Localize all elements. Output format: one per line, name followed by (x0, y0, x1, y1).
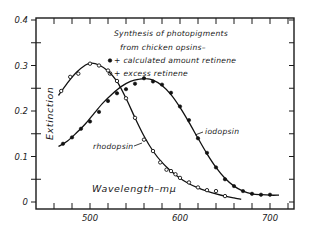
iodopsin-point (259, 193, 262, 196)
iodopsin-label: iodopsin (205, 127, 239, 136)
rhodopsin-point (223, 194, 226, 197)
series-layer (59, 62, 280, 199)
y-tick-label: 0.2 (14, 106, 28, 116)
rhodopsin-point (60, 89, 63, 92)
legend-entry-calculated: + calculated amount retinene (114, 56, 236, 65)
legend: Synthesis of photopigments from chicken … (108, 29, 236, 78)
iodopsin-point (196, 137, 199, 140)
iodopsin-point (250, 192, 253, 195)
y-tick-label: 0.3 (14, 61, 28, 71)
rhodopsin-label: rhodopsin (93, 142, 133, 151)
rhodopsin-point (165, 168, 168, 171)
rhodopsin-point (124, 97, 127, 100)
rhodopsin-point (169, 169, 172, 172)
iodopsin-point (124, 87, 127, 90)
rhodopsin-point (106, 69, 109, 72)
iodopsin-point (268, 193, 271, 196)
rhodopsin-point (159, 161, 162, 164)
rhodopsin-point (77, 72, 80, 75)
x-tick-label: 500 (82, 213, 98, 223)
iodopsin-point (178, 105, 181, 108)
iodopsin-point (70, 136, 73, 139)
iodopsin-point (115, 92, 118, 95)
legend-heading-line-2: from chicken opsins– (120, 43, 206, 52)
rhodopsin-point (69, 75, 72, 78)
iodopsin-point (205, 151, 208, 154)
rhodopsin-point (151, 149, 154, 152)
y-axis-title: Extinction (44, 87, 55, 140)
series-iodopsin (59, 77, 280, 197)
iodopsin-point (223, 178, 226, 181)
iodopsin-point (241, 189, 244, 192)
rhodopsin-point (88, 62, 91, 65)
rhodopsin-point (142, 138, 145, 141)
iodopsin-point (151, 80, 154, 83)
rhodopsin-point (174, 173, 177, 176)
spectra-chart: 500600700 00.10.20.30.4 Extinction Wavel… (0, 0, 315, 236)
iodopsin-point (169, 91, 172, 94)
rhodopsin-point (205, 188, 208, 191)
iodopsin-point (106, 99, 109, 102)
iodopsin-point (79, 127, 82, 130)
iodopsin-point (142, 77, 145, 80)
iodopsin-point (97, 110, 100, 113)
y-tick-labels: 00.10.20.30.4 (14, 15, 28, 207)
iodopsin-point (214, 166, 217, 169)
rhodopsin-point (133, 116, 136, 119)
iodopsin-point (187, 118, 190, 121)
x-tick-label: 600 (172, 213, 188, 223)
iodopsin-leader-line (195, 132, 203, 135)
rhodopsin-point (214, 189, 217, 192)
iodopsin-point (88, 120, 91, 123)
iodopsin-point (133, 82, 136, 85)
iodopsin-point (232, 184, 235, 187)
rhodopsin-leader-line (134, 143, 142, 146)
x-tick-label: 700 (262, 213, 278, 223)
y-tick-label: 0.1 (14, 152, 28, 162)
x-axis-title: Wavelength–mμ (92, 183, 176, 194)
legend-entry-excess: + excess retinene (114, 69, 188, 78)
rhodopsin-point (196, 186, 199, 189)
legend-heading-line-1: Synthesis of photopigments (114, 29, 228, 38)
legend-marker-filled (108, 59, 112, 63)
rhodopsin-point (178, 176, 181, 179)
iodopsin-point (61, 142, 64, 145)
y-tick-label: 0 (23, 197, 28, 207)
iodopsin-point (160, 83, 163, 86)
rhodopsin-point (187, 181, 190, 184)
iodopsin-curve (59, 79, 280, 196)
x-tick-labels: 500600700 (82, 213, 278, 223)
y-tick-label: 0.4 (14, 15, 28, 25)
rhodopsin-point (97, 64, 100, 67)
rhodopsin-point (115, 79, 118, 82)
annotations: rhodopsin iodopsin (93, 127, 239, 151)
